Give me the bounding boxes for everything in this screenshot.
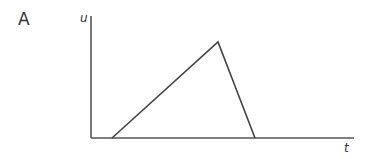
pulse-diagram [0,0,374,159]
pulse-curve [112,42,255,138]
